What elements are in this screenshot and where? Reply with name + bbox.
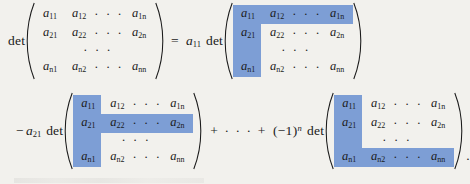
- diagonal-ellipsis: · · ·: [83, 43, 113, 58]
- row-ellipsis-1: · · ·: [393, 97, 423, 112]
- cell-a2n: a2n: [431, 116, 445, 130]
- cell-a22: a22: [371, 116, 385, 130]
- cell-ann: ann: [330, 60, 344, 74]
- scan-artifact: [14, 178, 204, 183]
- det-label-term2: det: [42, 123, 63, 139]
- row-ellipsis-2: · · ·: [94, 26, 124, 41]
- cell-an2: an2: [72, 60, 86, 74]
- close-paren-icon: [454, 92, 463, 170]
- diagonal-ellipsis: · · ·: [281, 43, 311, 58]
- cell-ann: ann: [431, 150, 445, 164]
- cell-a1n: a1n: [431, 97, 445, 111]
- cell-an1: an1: [241, 60, 255, 74]
- open-paren-icon: [64, 92, 73, 170]
- close-paren-icon: [193, 92, 202, 170]
- cell-ann: ann: [170, 150, 184, 164]
- row-ellipsis-n: · · ·: [292, 60, 322, 75]
- cell-a1n: a1n: [132, 7, 146, 21]
- equals-sign: =: [165, 33, 186, 49]
- cell-a21: a21: [342, 116, 356, 130]
- series-connector: + · · · +: [203, 123, 273, 139]
- cell-a2n: a2n: [170, 116, 184, 130]
- cell-a22: a22: [72, 26, 86, 40]
- cell-an2: an2: [371, 150, 385, 164]
- det-label-term1: det: [202, 33, 223, 49]
- row-ellipsis-n: · · ·: [132, 150, 162, 165]
- cell-a2n: a2n: [330, 26, 344, 40]
- cell-a12: a12: [371, 97, 385, 111]
- row-ellipsis-n: · · ·: [393, 150, 423, 165]
- row-ellipsis-2: · · ·: [132, 116, 162, 131]
- diagonal-ellipsis: · · ·: [121, 133, 151, 148]
- equation-line-2: − a21 det a11 a12 · · · a1n a21 a22: [14, 92, 470, 170]
- cell-a11: a11: [342, 97, 356, 111]
- row-ellipsis-2: · · ·: [292, 26, 322, 41]
- matrix-body: a11 a12 · · · a1n a21 a22 · · · a2n · · …: [334, 92, 454, 170]
- cell-a1n: a1n: [170, 97, 184, 111]
- cell-a12: a12: [270, 7, 284, 21]
- close-paren-icon: [353, 2, 362, 80]
- det-label-termN: det: [302, 123, 324, 139]
- coefficient-a11: a11: [186, 33, 202, 49]
- cell-an1: an1: [342, 150, 356, 164]
- cell-a12: a12: [110, 97, 124, 111]
- matrix-body: a11 a12 · · · a1n a21 a22 · · · a2n · · …: [73, 92, 193, 170]
- cell-a11: a11: [43, 7, 57, 21]
- row-ellipsis-1: · · ·: [94, 7, 124, 22]
- close-paren-icon: [155, 2, 164, 80]
- cell-a1n: a1n: [330, 7, 344, 21]
- sign-factor: (−1)n: [273, 123, 302, 139]
- cell-a2n: a2n: [132, 26, 146, 40]
- cell-a22: a22: [270, 26, 284, 40]
- cell-a12: a12: [72, 7, 86, 21]
- cell-ann: ann: [132, 60, 146, 74]
- cell-a11: a11: [241, 7, 255, 21]
- matrix-plain: a11 a12 · · · a1n a21 a22 · · · a2n · · …: [26, 2, 164, 80]
- matrix-tee: a11 a12 · · · a1n a21 a22 · · · a2n · · …: [64, 92, 202, 170]
- matrix-body: a11 a12 · · · a1n a21 a22 · · · a2n · · …: [35, 2, 155, 80]
- row-ellipsis-1: · · ·: [132, 97, 162, 112]
- diagonal-ellipsis: · · ·: [382, 133, 412, 148]
- equation-line-1: det a11 a12 · · · a1n a21 a22 · · · a2n …: [8, 2, 363, 80]
- cell-an1: an1: [81, 150, 95, 164]
- cell-a21: a21: [81, 116, 95, 130]
- row-ellipsis-2: · · ·: [393, 116, 423, 131]
- cell-a22: a22: [110, 116, 124, 130]
- open-paren-icon: [26, 2, 35, 80]
- open-paren-icon: [325, 92, 334, 170]
- cell-a21: a21: [43, 26, 57, 40]
- cell-a11: a11: [81, 97, 95, 111]
- det-label-lhs: det: [8, 33, 25, 49]
- cell-an2: an2: [110, 150, 124, 164]
- row-ellipsis-n: · · ·: [94, 60, 124, 75]
- row-ellipsis-1: · · ·: [292, 7, 322, 22]
- matrix-body: a11 a12 · · · a1n a21 a22 · · · a2n · · …: [233, 2, 353, 80]
- cell-an2: an2: [270, 60, 284, 74]
- matrix-ell: a11 a12 · · · a1n a21 a22 · · · a2n · · …: [325, 92, 463, 170]
- matrix-gamma: a11 a12 · · · a1n a21 a22 · · · a2n · · …: [224, 2, 362, 80]
- cell-a21: a21: [241, 26, 255, 40]
- cell-an1: an1: [43, 60, 57, 74]
- terminating-period: .: [464, 148, 469, 170]
- coefficient-a21: a21: [26, 123, 42, 139]
- minus-sign: −: [14, 123, 26, 139]
- open-paren-icon: [224, 2, 233, 80]
